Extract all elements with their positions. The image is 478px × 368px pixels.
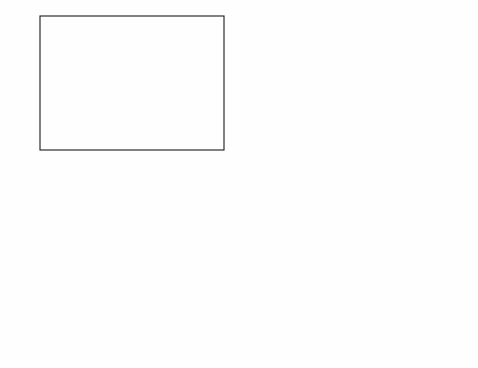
panel-top-left-plot <box>0 2 239 184</box>
panel-bottom-left-plot <box>0 186 239 368</box>
panel-bottom-left <box>0 186 239 368</box>
panel-top-right <box>239 2 478 184</box>
figure-canvas <box>0 0 478 368</box>
axes-top-left <box>40 16 224 150</box>
panel-top-left <box>0 2 239 184</box>
panel-bottom-right <box>239 186 478 368</box>
panel-bottom-right-plot <box>239 186 478 368</box>
panel-top-right-plot <box>239 2 478 184</box>
